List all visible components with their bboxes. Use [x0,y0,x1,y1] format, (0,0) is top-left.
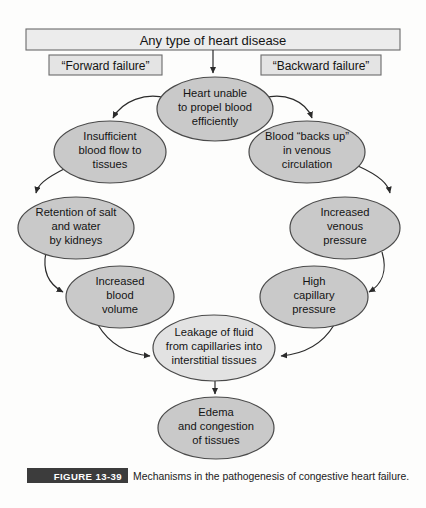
node-line: Increased [95,275,144,287]
arrow-volume-to-leakage [98,325,150,356]
node-line: from capillaries into [166,340,262,352]
arrow-capillary-to-leakage [281,325,334,356]
node-line: Insufficient [83,130,137,142]
node-line: Edema [198,406,234,418]
node-line: in venous [283,144,331,156]
figure-page: Any type of heart disease “Forward failu… [0,0,426,508]
node-retention-salt-water[interactable]: Retention of salt and water by kidneys [18,197,134,259]
node-increased-blood-volume[interactable]: Increased blood volume [66,266,174,328]
node-line: and congestion [178,420,254,432]
node-line: Blood “backs up” [265,130,349,142]
node-line: blood flow to [79,144,142,156]
figure-caption-text: Mechanisms in the pathogenesis of conges… [133,471,409,482]
node-line: capillary [293,289,334,301]
node-blood-backs-up[interactable]: Blood “backs up” in venous circulation [249,121,365,183]
node-heart-unable[interactable]: Heart unable to propel blood efficiently [157,77,273,141]
node-line: by kidneys [50,234,103,246]
heart-failure-flow-diagram: Any type of heart disease “Forward failu… [0,0,426,508]
node-line: tissues [93,158,128,170]
header-box: Any type of heart disease [26,29,400,50]
node-line: Heart unable [183,87,247,99]
node-line: and water [51,220,100,232]
node-line: Increased [320,206,369,218]
node-increased-venous-pressure[interactable]: Increased venous pressure [290,197,400,259]
forward-failure-label: “Forward failure” [49,55,162,75]
forward-failure-text: “Forward failure” [61,59,149,73]
node-line: volume [102,303,138,315]
backward-failure-text: “Backward failure” [273,59,370,73]
node-line: Leakage of fluid [175,326,254,338]
figure-caption: FIGURE 13-39 Mechanisms in the pathogene… [27,468,409,483]
node-line: circulation [282,158,332,170]
node-line: Retention of salt [36,206,118,218]
node-line: to propel blood [178,101,252,113]
node-insufficient-blood-flow[interactable]: Insufficient blood flow to tissues [54,121,166,183]
node-line: High [302,275,325,287]
node-line: efficiently [192,115,239,127]
figure-tag-text: FIGURE 13-39 [54,471,122,482]
backward-failure-label: “Backward failure” [261,55,381,75]
node-edema-congestion[interactable]: Edema and congestion of tissues [158,397,274,459]
node-line: interstitial tissues [171,354,257,366]
node-leakage-of-fluid[interactable]: Leakage of fluid from capillaries into i… [153,315,275,381]
arrow-insufficient-to-retention [36,168,66,193]
node-line: of tissues [192,434,240,446]
header-title: Any type of heart disease [140,33,287,48]
node-line: blood [106,289,133,301]
node-line: venous [327,220,363,232]
node-line: pressure [292,303,336,315]
arrow-venous-to-capillary [369,252,384,292]
arrow-backsup-to-venous [358,166,390,193]
node-line: pressure [323,234,367,246]
node-high-capillary-pressure[interactable]: High capillary pressure [260,266,368,328]
